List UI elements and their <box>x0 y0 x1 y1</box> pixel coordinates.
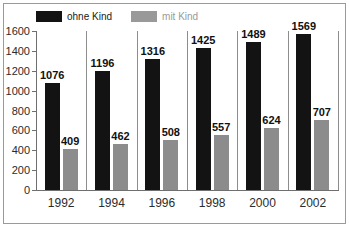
bar[interactable]: 409 <box>63 149 78 190</box>
y-tick-label: 1600 <box>6 25 30 37</box>
plot-area: 1076409119646213165081425557148962415697… <box>36 31 338 190</box>
bar[interactable]: 707 <box>314 120 329 190</box>
y-tick-mark <box>32 190 36 191</box>
x-tick-label: 2002 <box>299 196 326 210</box>
bar[interactable]: 1076 <box>45 83 60 190</box>
y-tick-label: 1200 <box>6 65 30 77</box>
bar-value-label: 462 <box>111 130 129 142</box>
bar-value-label: 409 <box>61 135 79 147</box>
x-tick-label: 1998 <box>199 196 226 210</box>
bar-group: 1196462 <box>86 31 136 190</box>
bar-value-label: 624 <box>262 114 280 126</box>
bar[interactable]: 1489 <box>246 42 261 190</box>
bar-value-label: 1489 <box>241 28 265 40</box>
x-tick-label: 1996 <box>148 196 175 210</box>
legend-item-mit-kind: mit Kind <box>131 11 198 22</box>
x-tick-label: 1994 <box>98 196 125 210</box>
legend-label-mit-kind: mit Kind <box>162 11 198 22</box>
bar[interactable]: 557 <box>214 135 229 190</box>
x-axis-line <box>36 190 339 191</box>
bar[interactable]: 1196 <box>95 71 110 190</box>
legend-item-ohne-kind: ohne Kind <box>36 11 112 22</box>
bar-value-label: 1425 <box>191 34 215 46</box>
y-tick-label: 0 <box>24 184 30 196</box>
bar-value-label: 1316 <box>141 45 165 57</box>
bar-value-label: 1569 <box>292 20 316 32</box>
bar-group: 1569707 <box>288 31 338 190</box>
x-tick-label: 1992 <box>48 196 75 210</box>
y-tick-label: 200 <box>12 164 30 176</box>
chart-legend: ohne Kind mit Kind <box>36 8 198 24</box>
bar-value-label: 707 <box>313 106 331 118</box>
bar-value-label: 1076 <box>40 69 64 81</box>
bar[interactable]: 624 <box>264 128 279 190</box>
bar[interactable]: 1425 <box>196 48 211 190</box>
bar[interactable]: 508 <box>163 140 178 190</box>
y-tick-label: 1000 <box>6 85 30 97</box>
legend-swatch-ohne-kind <box>36 11 62 22</box>
y-tick-label: 1400 <box>6 45 30 57</box>
bar[interactable]: 1316 <box>145 59 160 190</box>
bar[interactable]: 1569 <box>296 34 311 190</box>
chart-figure: ohne Kind mit Kind 020040060080010001200… <box>0 0 349 227</box>
x-tick-label: 2000 <box>249 196 276 210</box>
y-tick-label: 800 <box>12 105 30 117</box>
bar[interactable]: 462 <box>113 144 128 190</box>
y-tick-label: 400 <box>12 144 30 156</box>
y-tick-label: 600 <box>12 124 30 136</box>
bar-group: 1076409 <box>36 31 86 190</box>
legend-label-ohne-kind: ohne Kind <box>67 11 112 22</box>
legend-swatch-mit-kind <box>131 11 157 22</box>
bar-group: 1316508 <box>137 31 187 190</box>
bar-value-label: 557 <box>212 121 230 133</box>
bar-value-label: 1196 <box>91 57 115 69</box>
group-separator <box>338 31 339 190</box>
bar-group: 1425557 <box>187 31 237 190</box>
bar-group: 1489624 <box>237 31 287 190</box>
bar-value-label: 508 <box>162 126 180 138</box>
